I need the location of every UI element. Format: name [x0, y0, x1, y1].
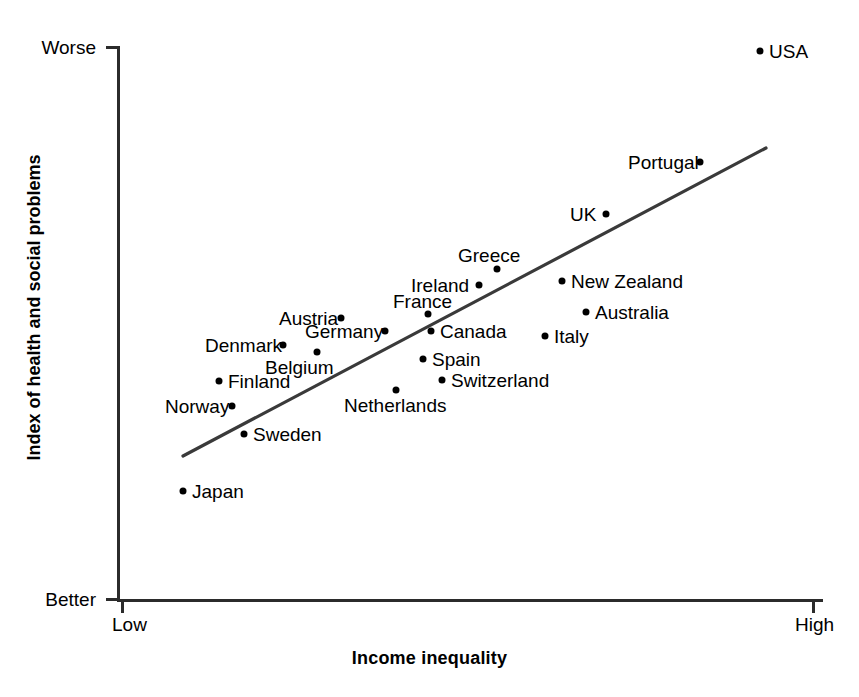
point-marker [476, 282, 483, 289]
point-marker [393, 387, 400, 394]
point-label-norway: Norway [165, 397, 229, 416]
point-label-australia: Australia [595, 303, 669, 322]
x-axis-title: Income inequality [0, 648, 859, 669]
point-marker [314, 349, 321, 356]
point-marker [420, 356, 427, 363]
point-label-switzerland: Switzerland [451, 371, 549, 390]
point-marker [439, 377, 446, 384]
point-marker [428, 328, 435, 335]
point-label-usa: USA [769, 42, 808, 61]
point-marker [583, 309, 590, 316]
scatter-chart: Worse Better Low High Income inequality … [0, 0, 859, 697]
y-tick-better [106, 598, 117, 601]
point-label-portugal: Portugal [628, 153, 699, 172]
point-label-france: France [393, 292, 452, 311]
point-marker [229, 403, 236, 410]
y-tick-label-worse: Worse [41, 38, 96, 57]
trend-line [0, 0, 859, 697]
x-tick-label-high: High [795, 615, 834, 634]
point-label-finland: Finland [228, 372, 290, 391]
x-tick-low [121, 602, 124, 613]
point-label-sweden: Sweden [253, 425, 322, 444]
point-label-italy: Italy [554, 327, 589, 346]
point-label-greece: Greece [458, 246, 520, 265]
point-marker [603, 211, 610, 218]
point-label-denmark: Denmark [205, 336, 282, 355]
point-marker [757, 48, 764, 55]
point-marker [559, 278, 566, 285]
point-label-japan: Japan [192, 482, 244, 501]
point-marker [180, 488, 187, 495]
point-label-new-zealand: New Zealand [571, 272, 683, 291]
point-label-germany: Germany [305, 322, 383, 341]
point-label-netherlands: Netherlands [344, 396, 446, 415]
y-axis-line [117, 46, 120, 602]
point-label-canada: Canada [440, 322, 507, 341]
point-marker [241, 431, 248, 438]
y-tick-worse [106, 46, 117, 49]
x-axis-line [117, 599, 823, 602]
y-axis-title: Index of health and social problems [24, 93, 45, 523]
point-label-uk: UK [570, 205, 596, 224]
point-marker [542, 333, 549, 340]
x-tick-high [812, 602, 815, 613]
x-tick-label-low: Low [112, 615, 147, 634]
y-tick-label-better: Better [45, 590, 96, 609]
point-marker [494, 266, 501, 273]
point-marker [216, 378, 223, 385]
point-label-spain: Spain [432, 350, 481, 369]
